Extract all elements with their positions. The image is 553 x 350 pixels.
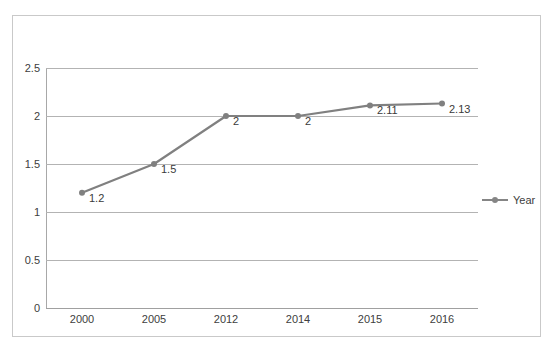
data-point-marker (367, 102, 373, 108)
y-axis-tick-label: 1.5 (25, 158, 40, 170)
x-axis-tick-label: 2016 (430, 313, 454, 325)
y-axis-tick-label: 0 (34, 302, 40, 314)
data-point-marker (295, 113, 301, 119)
data-point-label: 2 (305, 115, 311, 127)
data-point-marker (151, 161, 157, 167)
gridline (46, 308, 478, 309)
x-axis-tick-label: 2005 (142, 313, 166, 325)
data-point-label: 2 (233, 115, 239, 127)
y-axis-tick-label: 1 (34, 206, 40, 218)
plot-area: 1.21.5222.112.13 (46, 68, 478, 308)
x-axis-tick-label: 2014 (286, 313, 310, 325)
y-axis-tick-label: 2 (34, 110, 40, 122)
data-point-marker (79, 190, 85, 196)
line-series-year (46, 68, 478, 308)
data-point-label: 1.2 (89, 192, 104, 204)
y-axis-tick-labels: 00.511.522.5 (0, 68, 40, 308)
data-point-label: 2.11 (377, 104, 398, 116)
legend-marker-year-icon (482, 195, 508, 205)
data-point-marker (439, 101, 445, 107)
x-axis-tick-label: 2000 (70, 313, 94, 325)
legend-label-year: Year (513, 194, 535, 206)
y-axis-tick-label: 2.5 (25, 62, 40, 74)
x-axis-tick-labels: 200020052012201420152016 (46, 313, 478, 333)
data-point-marker (223, 113, 229, 119)
series-line (82, 104, 442, 193)
chart-legend: Year (482, 192, 535, 208)
chart-container: 00.511.522.5 1.21.5222.112.13 2000200520… (0, 0, 553, 350)
data-point-label: 1.5 (161, 163, 176, 175)
x-axis-tick-label: 2012 (214, 313, 238, 325)
x-axis-tick-label: 2015 (358, 313, 382, 325)
data-point-label: 2.13 (449, 103, 470, 115)
y-axis-tick-label: 0.5 (25, 254, 40, 266)
